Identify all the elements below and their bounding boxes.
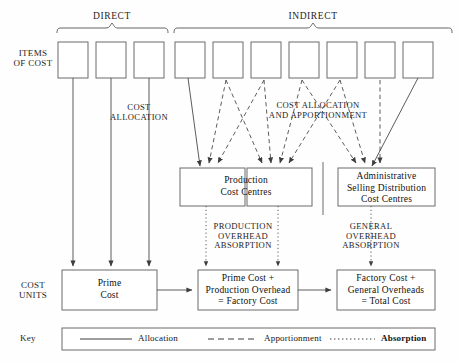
production-cost-centres-line2: Cost Centres	[196, 187, 296, 199]
prime-cost-label: Prime Cost	[62, 278, 157, 301]
factory-cost-line1: Prime Cost +	[198, 273, 298, 285]
flow-label-cost-allocation: COST ALLOCATION	[99, 103, 179, 122]
admin-cost-centres-line1: Administrative	[338, 171, 435, 183]
cost-item-box	[403, 42, 433, 78]
production-cost-centres-line1: Production	[196, 175, 296, 187]
cost-item-box	[58, 42, 88, 78]
factory-cost-label: Prime Cost + Production Overhead = Facto…	[198, 273, 298, 308]
cost-item-box	[289, 42, 319, 78]
flow-label-cost-allocation-line2: ALLOCATION	[99, 113, 179, 123]
admin-cost-centres-line3: Cost Centres	[338, 194, 435, 206]
factory-cost-line2: Production Overhead	[198, 285, 298, 297]
cost-item-box	[175, 42, 205, 78]
key-label-apportionment: Apportionment	[264, 333, 354, 343]
cost-item-box	[134, 42, 164, 78]
cost-item-box	[213, 42, 243, 78]
total-cost-line1: Factory Cost +	[337, 273, 435, 285]
factory-cost-line3: = Factory Cost	[198, 296, 298, 308]
row-label-cost-units-line2: UNITS	[4, 290, 62, 300]
prime-cost-line1: Prime	[62, 278, 157, 290]
flow-label-general-overhead-absorption: GENERAL OVERHEAD ABSORPTION	[331, 222, 411, 251]
total-cost-line3: = Total Cost	[337, 296, 435, 308]
flow-label-cost-allocation-apportionment: COST ALLOCATION AND APPORTIONMENT	[258, 101, 378, 120]
prime-cost-line2: Cost	[62, 290, 157, 302]
group-label-indirect: INDIRECT	[273, 11, 353, 22]
flow-label-general-overhead-absorption-line3: ABSORPTION	[331, 241, 411, 251]
group-brace-direct	[57, 23, 168, 33]
flow-label-production-overhead-absorption-line3: ABSORPTION	[203, 241, 283, 251]
admin-cost-centres-label: Administrative Selling Distribution Cost…	[338, 171, 435, 206]
cost-item-box	[365, 42, 395, 78]
row-label-items-of-cost-line1: ITEMS	[4, 48, 62, 58]
flow-label-cost-allocation-apportionment-line2: AND APPORTIONMENT	[258, 111, 378, 121]
cost-item-box	[251, 42, 281, 78]
row-label-items-of-cost-line2: OF COST	[4, 58, 62, 68]
apportionment-lines	[209, 80, 380, 163]
total-cost-line2: General Overheads	[337, 285, 435, 297]
allocation-lines-indirect	[188, 78, 418, 166]
cost-item-box	[327, 42, 357, 78]
key-title: Key	[20, 333, 60, 343]
row-label-items-of-cost: ITEMS OF COST	[4, 48, 62, 68]
total-cost-label: Factory Cost + General Overheads = Total…	[337, 273, 435, 308]
flow-label-production-overhead-absorption: PRODUCTION OVERHEAD ABSORPTION	[203, 222, 283, 251]
row-label-cost-units: COST UNITS	[4, 280, 62, 300]
key-label-absorption: Absorption	[381, 333, 459, 343]
key-label-allocation: Allocation	[138, 333, 218, 343]
diagram-canvas: ITEMS OF COST COST UNITS DIRECT INDIRECT…	[0, 0, 459, 362]
cost-item-box-row	[58, 42, 433, 78]
row-label-cost-units-line1: COST	[4, 280, 62, 290]
group-label-direct: DIRECT	[72, 11, 152, 22]
group-brace-indirect	[174, 23, 452, 33]
production-cost-centres-label: Production Cost Centres	[196, 175, 296, 198]
cost-item-box	[96, 42, 126, 78]
admin-cost-centres-line2: Selling Distribution	[338, 183, 435, 195]
